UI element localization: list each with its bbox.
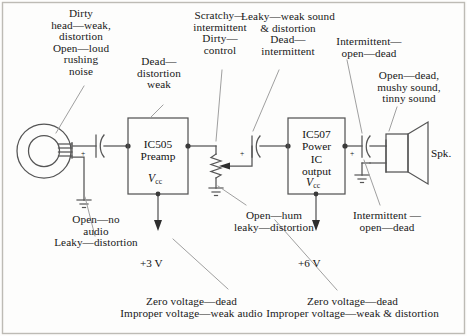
- leader-pot-ground: [218, 186, 246, 205]
- annotation-power-voltage: Zero voltage—dead Improper voltage—weak …: [245, 296, 460, 319]
- annotation-open-no-audio: Open—no audio Leaky—distortion: [26, 214, 166, 249]
- power-vcc-node: [314, 192, 319, 197]
- annotation-intermittent-open-dead-bottom: Intermittent — open—dead: [332, 210, 442, 233]
- input-cap-polarity: +: [81, 150, 85, 158]
- annotation-speaker-open-dead: Open—dead, mushy sound, tinny sound: [357, 70, 461, 105]
- output-cap-polarity: +: [350, 150, 354, 158]
- annotation-leader-lines: [56, 60, 397, 290]
- interstage-coupling-capacitor: [252, 136, 260, 157]
- preamp-supply-voltage: +3 V: [140, 257, 163, 269]
- ic507-vcc-label: Vcc: [306, 176, 320, 188]
- ic505-vcc-label: Vcc: [148, 172, 162, 184]
- head-ground-symbol: [77, 200, 91, 208]
- annotation-open-hum-leaky: Open—hum leaky—distortion: [222, 210, 326, 233]
- interstage-cap-polarity: +: [240, 150, 244, 158]
- speaker-label: Spk.: [431, 147, 451, 159]
- output-coupling-capacitor: [362, 136, 370, 157]
- speaker-ground-symbol: [355, 175, 369, 183]
- input-coupling-capacitor: [96, 135, 104, 157]
- pot-ground-symbol: [209, 188, 223, 196]
- preamp-vcc-node: [156, 192, 161, 197]
- speaker-symbol: [386, 122, 428, 184]
- leader-preamp-supply: [173, 239, 228, 289]
- tape-head-symbol: [17, 124, 72, 178]
- leader-control: [216, 70, 222, 141]
- annotation-intermittent-open-dead-top: Intermittent— open—dead: [320, 36, 418, 59]
- ic505-name: IC505 Preamp: [128, 138, 188, 163]
- leader-interstage-cap: [253, 70, 279, 131]
- leader-power-cap: [364, 160, 380, 205]
- leader-speaker: [389, 107, 397, 131]
- head-bottom-lead: [72, 157, 84, 200]
- potentiometer-symbol: [211, 154, 221, 188]
- leader-head: [56, 86, 84, 133]
- leader-preamp: [150, 105, 163, 118]
- power-supply-voltage: +6 V: [298, 257, 321, 269]
- annotation-preamp-dead: Dead— distortion weak: [117, 56, 201, 91]
- circuit-diagram-figure: Dirty head—weak, distortion Open—loud ru…: [0, 0, 467, 336]
- ic507-name: IC507 Power IC output: [288, 128, 345, 178]
